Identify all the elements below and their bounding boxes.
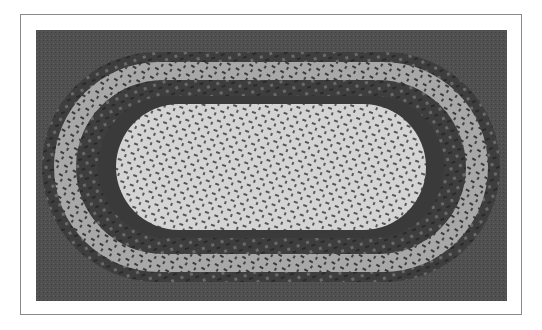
braided-rug-illustration <box>36 30 507 301</box>
rug-center <box>116 104 426 230</box>
rug-photo <box>36 30 507 301</box>
